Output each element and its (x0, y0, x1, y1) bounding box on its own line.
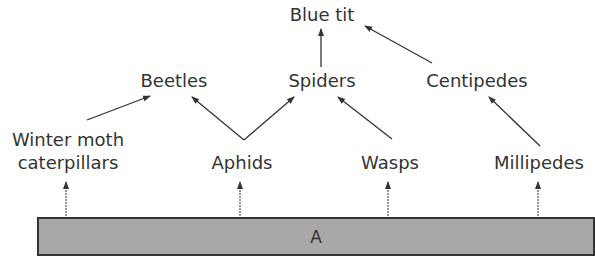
arrow-wasps-to-spiders (338, 97, 392, 139)
node-wasps: Wasps (361, 152, 419, 174)
arrow-millipedes-to-centipedes (489, 97, 540, 146)
node-beetles: Beetles (140, 70, 207, 92)
arrow-wintermoth-to-beetles (87, 96, 150, 120)
producer-label: A (310, 227, 322, 247)
node-millipedes: Millipedes (494, 152, 584, 174)
arrow-aphids-to-beetles (192, 97, 244, 140)
producer-box-a: A (37, 217, 595, 256)
arrow-aphids-to-spiders (244, 97, 294, 140)
node-centipedes: Centipedes (426, 70, 528, 92)
node-spiders: Spiders (288, 70, 355, 92)
node-winter-moth-line2: caterpillars (18, 152, 119, 174)
node-blue-tit: Blue tit (290, 4, 355, 26)
node-aphids: Aphids (212, 152, 273, 174)
arrow-centipedes-to-bluetit (365, 26, 432, 63)
node-winter-moth-line1: Winter moth (12, 129, 124, 151)
